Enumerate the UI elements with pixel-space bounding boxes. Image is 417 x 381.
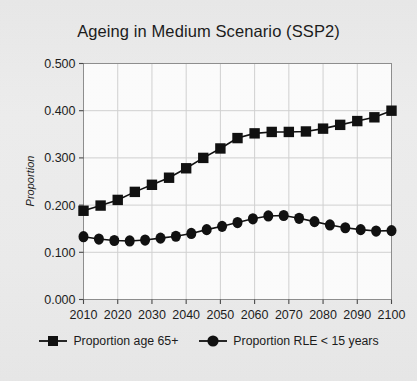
data-point-marker <box>387 225 397 236</box>
data-point-marker <box>164 173 174 183</box>
x-tick-label: 2010 <box>70 308 98 322</box>
data-point-marker <box>79 231 89 242</box>
data-point-marker <box>217 221 227 232</box>
x-tick-label: 2040 <box>172 308 200 322</box>
legend-label-age65: Proportion age 65+ <box>73 334 178 348</box>
data-point-marker <box>232 133 242 143</box>
data-point-marker <box>202 224 212 235</box>
data-point-marker <box>318 123 328 133</box>
x-tick-label: 2060 <box>241 308 269 322</box>
data-point-marker <box>130 187 140 197</box>
plot-area <box>84 64 392 300</box>
data-point-marker <box>248 213 258 224</box>
data-point-marker <box>181 163 191 173</box>
y-tick-label: 0.300 <box>44 151 75 165</box>
square-marker-icon <box>38 334 68 348</box>
x-tick-label: 2090 <box>343 308 371 322</box>
x-tick-label: 2070 <box>275 308 303 322</box>
data-point-marker <box>156 233 166 244</box>
data-point-marker <box>125 235 135 246</box>
x-axis-tick-labels: 2010202020302040205020602070208020902100 <box>70 308 406 322</box>
data-point-marker <box>301 126 311 136</box>
data-point-marker <box>233 217 243 228</box>
legend-label-rle: Proportion RLE < 15 years <box>233 334 378 348</box>
data-point-marker <box>147 180 157 190</box>
y-axis-title: Proportion <box>24 156 36 207</box>
data-point-marker <box>279 210 289 221</box>
data-point-marker <box>340 222 350 233</box>
y-axis-tick-labels: 0.0000.1000.2000.3000.4000.500 <box>44 57 75 307</box>
data-point-marker <box>109 235 119 246</box>
chart-legend: Proportion age 65+ Proportion RLE < 15 y… <box>0 334 417 348</box>
plot-canvas: 0.0000.1000.2000.3000.4000.500 201020202… <box>0 0 417 381</box>
x-tick-label: 2080 <box>309 308 337 322</box>
data-point-marker <box>215 143 225 153</box>
data-point-marker <box>113 195 123 205</box>
data-point-marker <box>198 153 208 163</box>
data-point-marker <box>325 219 335 230</box>
data-point-marker <box>371 225 381 236</box>
data-point-marker <box>335 120 345 130</box>
data-point-marker <box>310 216 320 227</box>
data-point-marker <box>186 228 196 239</box>
data-point-marker <box>140 234 150 245</box>
y-tick-label: 0.500 <box>44 57 75 71</box>
x-tick-label: 2030 <box>138 308 166 322</box>
data-point-marker <box>284 127 294 137</box>
x-tick-label: 2020 <box>104 308 132 322</box>
data-point-marker <box>263 210 273 221</box>
y-tick-label: 0.200 <box>44 199 75 213</box>
data-point-marker <box>249 128 259 138</box>
data-point-marker <box>386 106 396 116</box>
data-point-marker <box>356 224 366 235</box>
data-point-marker <box>94 233 104 244</box>
x-tick-label: 2100 <box>378 308 406 322</box>
data-point-marker <box>267 127 277 137</box>
data-point-marker <box>78 206 88 216</box>
y-tick-label: 0.400 <box>44 104 75 118</box>
circle-marker-icon <box>198 334 228 348</box>
x-tick-label: 2050 <box>206 308 234 322</box>
data-point-marker <box>95 200 105 210</box>
y-tick-label: 0.000 <box>44 293 75 307</box>
data-point-marker <box>352 116 362 126</box>
legend-item-rle[interactable]: Proportion RLE < 15 years <box>198 334 378 348</box>
data-point-marker <box>369 112 379 122</box>
data-point-marker <box>171 231 181 242</box>
legend-item-age65[interactable]: Proportion age 65+ <box>38 334 178 348</box>
chart-figure: Ageing in Medium Scenario (SSP2) 0.0000.… <box>0 0 417 381</box>
data-point-marker <box>294 213 304 224</box>
y-tick-label: 0.100 <box>44 246 75 260</box>
